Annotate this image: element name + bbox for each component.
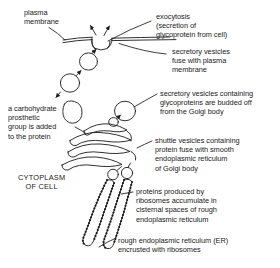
label-exocytosis: exocytosis (secretion of glycoprotein fr… — [156, 12, 227, 40]
label-carbohydrate-prosthetic-group: a carbohydrate prosthetic group is added… — [8, 104, 57, 141]
exocytosis-arrows — [91, 26, 110, 36]
label-secretory-vesicles-fuse: secretory vesicles fuse with plasma memb… — [172, 47, 230, 75]
label-plasma-membrane: plasma membrane — [24, 8, 59, 26]
diagram-page: plasma membrane exocytosis (secretion of… — [0, 0, 280, 268]
label-shuttle-vesicles: shuttle vesicles containing protein fuse… — [155, 136, 240, 173]
shuttle-vesicles — [108, 163, 133, 180]
label-rough-er: rough endoplasmic reticulum (ER) encrust… — [118, 236, 228, 254]
label-proteins-produced-by-ribosomes: proteins produced by ribosomes accumulat… — [136, 187, 217, 224]
label-vesicles-budded-off: secretory vesicles containing glycoprote… — [160, 89, 253, 117]
exocytosis-pore — [92, 37, 112, 50]
label-cytoplasm-of-cell: CYTOPLASM OF CELL — [18, 173, 65, 191]
secretory-vesicles — [56, 50, 98, 124]
